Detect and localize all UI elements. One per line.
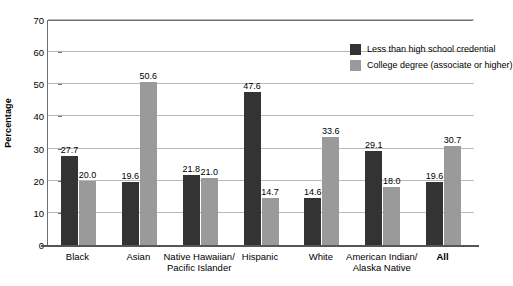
bar-value-label: 21.0 bbox=[200, 167, 218, 177]
bar-value-label: 27.7 bbox=[61, 145, 79, 155]
y-tick-label: 70 bbox=[20, 15, 44, 26]
y-tick-label: 60 bbox=[20, 47, 44, 58]
y-tick-label: 30 bbox=[20, 143, 44, 154]
x-axis-group-label: Hispanic bbox=[242, 251, 278, 262]
x-label-line: White bbox=[309, 251, 333, 262]
bar bbox=[122, 182, 139, 245]
x-axis-baseline bbox=[41, 245, 479, 247]
x-label-line: Native Hawaiian/ bbox=[163, 251, 234, 262]
gridline bbox=[48, 19, 474, 20]
y-tick-label: 50 bbox=[20, 79, 44, 90]
legend-swatch bbox=[350, 44, 361, 55]
legend-label: Less than high school credential bbox=[367, 44, 496, 54]
gridline bbox=[48, 115, 474, 116]
x-axis-group-label: Native Hawaiian/Pacific Islander bbox=[163, 251, 234, 273]
bar bbox=[444, 146, 461, 245]
bar bbox=[304, 198, 321, 245]
x-axis-group-label: Asian bbox=[126, 251, 150, 262]
bar-value-label: 30.7 bbox=[444, 135, 462, 145]
x-label-line: American Indian/ bbox=[346, 251, 417, 262]
bar-value-label: 19.6 bbox=[426, 171, 444, 181]
x-label-line: Hispanic bbox=[242, 251, 278, 262]
bar-value-label: 21.8 bbox=[182, 164, 200, 174]
y-tick-label: 20 bbox=[20, 175, 44, 186]
x-label-line: Asian bbox=[126, 251, 150, 262]
bar-value-label: 19.6 bbox=[122, 171, 140, 181]
x-label-line: All bbox=[436, 251, 448, 262]
y-axis-title-text: Percentage bbox=[3, 98, 13, 148]
bar bbox=[383, 187, 400, 245]
legend-item: College degree (associate or higher) bbox=[350, 58, 513, 72]
gridline bbox=[48, 180, 474, 181]
y-tick-label: 10 bbox=[20, 207, 44, 218]
legend-swatch bbox=[350, 60, 361, 71]
legend-item: Less than high school credential bbox=[350, 42, 513, 56]
bar-value-label: 14.7 bbox=[261, 187, 279, 197]
bar bbox=[79, 181, 96, 245]
x-axis-group-label: American Indian/Alaska Native bbox=[346, 251, 417, 273]
bar bbox=[183, 175, 200, 245]
x-axis-group-label: White bbox=[309, 251, 333, 262]
bar bbox=[61, 156, 78, 245]
bar bbox=[201, 178, 218, 246]
x-label-line: Pacific Islander bbox=[163, 262, 234, 273]
bar-value-label: 29.1 bbox=[365, 140, 383, 150]
x-label-line: Black bbox=[66, 251, 89, 262]
legend-label: College degree (associate or higher) bbox=[367, 60, 513, 70]
bar bbox=[140, 82, 157, 245]
gridline bbox=[48, 148, 474, 149]
x-label-line: Alaska Native bbox=[346, 262, 417, 273]
bar-value-label: 20.0 bbox=[79, 170, 97, 180]
x-axis-group-label: Black bbox=[66, 251, 89, 262]
plot-area: 27.720.019.650.621.821.047.614.714.633.6… bbox=[47, 20, 473, 245]
legend: Less than high school credentialCollege … bbox=[350, 42, 513, 74]
x-axis-group-label: All bbox=[436, 251, 448, 262]
bar-value-label: 47.6 bbox=[243, 81, 261, 91]
bar bbox=[426, 182, 443, 245]
bar-value-label: 50.6 bbox=[140, 71, 158, 81]
bar-value-label: 33.6 bbox=[322, 126, 340, 136]
gridline bbox=[48, 83, 474, 84]
bar bbox=[322, 137, 339, 245]
bar-value-label: 18.0 bbox=[383, 176, 401, 186]
bar bbox=[365, 151, 382, 245]
bar bbox=[244, 92, 261, 245]
bar bbox=[262, 198, 279, 245]
y-tick-label: 40 bbox=[20, 111, 44, 122]
y-axis-ticks: 010203040506070 bbox=[14, 20, 44, 245]
bar-value-label: 14.6 bbox=[304, 187, 322, 197]
